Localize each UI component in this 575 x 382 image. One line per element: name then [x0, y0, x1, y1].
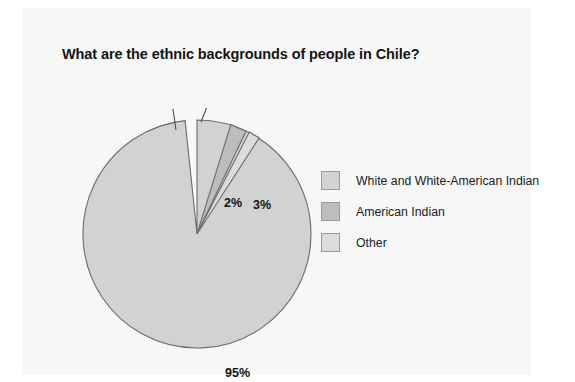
pie-svg — [77, 108, 327, 368]
pie-label-other: 2% — [224, 196, 242, 210]
pie-label-american-indian: 3% — [253, 198, 271, 212]
legend-item-american-indian[interactable]: American Indian — [321, 196, 551, 227]
pie-label-white-and-white-american-indian: 95% — [225, 366, 250, 380]
legend-swatch-icon-white-and-white-american-indian — [321, 171, 340, 190]
legend-item-other[interactable]: Other — [321, 227, 551, 258]
chart-panel: What are the ethnic backgrounds of peopl… — [22, 8, 531, 375]
legend-label-white-and-white-american-indian: White and White-American Indian — [356, 174, 539, 188]
legend-swatch-icon-other — [321, 233, 340, 252]
chart-figure: What are the ethnic backgrounds of peopl… — [0, 0, 575, 382]
pie-chart: 2% 3% 95% — [77, 108, 327, 368]
legend-swatch-icon-american-indian — [321, 202, 340, 221]
chart-title: What are the ethnic backgrounds of peopl… — [62, 46, 522, 62]
legend-label-other: Other — [356, 236, 387, 250]
legend-item-white-and-white-american-indian[interactable]: White and White-American Indian — [321, 165, 551, 196]
chart-legend: White and White-American Indian American… — [321, 165, 551, 258]
legend-label-american-indian: American Indian — [356, 205, 445, 219]
